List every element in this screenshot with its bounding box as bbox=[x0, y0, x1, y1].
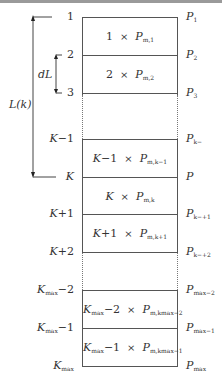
p-sub: k−+2 bbox=[193, 251, 211, 258]
k-text: K bbox=[37, 283, 45, 296]
k-text: K bbox=[50, 245, 58, 258]
cell-layer-k: K×Pm,k bbox=[83, 190, 177, 203]
cell-index: K bbox=[83, 303, 91, 316]
cell-sub: m,k−1 bbox=[147, 158, 167, 165]
times-symbol: × bbox=[121, 191, 129, 202]
level-label-k-1: K−1 bbox=[14, 133, 74, 145]
pressure-label-3: P3 bbox=[186, 87, 197, 102]
pressure-label-k+2: Pk−+2 bbox=[186, 246, 211, 261]
times-symbol: × bbox=[127, 304, 135, 315]
minus-two-text: −2 bbox=[58, 283, 74, 296]
level-1-text: 1 bbox=[67, 10, 74, 23]
cell-index: 2 bbox=[106, 68, 113, 81]
max-sub: max bbox=[45, 327, 58, 334]
p-sub: max bbox=[193, 365, 206, 372]
times-symbol: × bbox=[124, 153, 132, 164]
times-symbol: × bbox=[127, 342, 135, 353]
p-sub: k−+1 bbox=[193, 213, 211, 220]
pressure-label-1: P1 bbox=[186, 11, 197, 26]
pressure-label-max: Pmax bbox=[186, 360, 206, 375]
cell-var: P bbox=[140, 152, 147, 165]
level-label-3: 3 bbox=[14, 87, 74, 99]
cell-sub: m,kmax−2 bbox=[150, 309, 183, 316]
level-label-1: 1 bbox=[14, 11, 74, 23]
pressure-label-2: P2 bbox=[186, 49, 197, 64]
cell-suffix: −1 bbox=[104, 341, 120, 354]
level-label-k+1: K+1 bbox=[14, 208, 74, 220]
cell-suffix: −1 bbox=[101, 152, 117, 165]
cell-var: P bbox=[135, 30, 142, 43]
pressure-label-max-1: Pmax−1 bbox=[186, 322, 215, 337]
p-sub: 1 bbox=[193, 16, 197, 23]
max-sub: max bbox=[91, 347, 104, 354]
p-text: P bbox=[186, 170, 193, 183]
k-text: K bbox=[37, 321, 45, 334]
cell-layer-kmax-2: Kmax−2×Pm,kmax−2 bbox=[83, 303, 177, 316]
level-label-2: 2 bbox=[14, 49, 74, 61]
dl-text: dL bbox=[38, 68, 52, 81]
times-symbol: × bbox=[124, 228, 132, 239]
plus-two-text: +2 bbox=[58, 245, 74, 258]
p-sub: 2 bbox=[193, 54, 197, 61]
k-text: K bbox=[50, 207, 58, 220]
pressure-label-k: P bbox=[186, 171, 193, 183]
max-sub: max bbox=[91, 309, 104, 316]
pressure-label-max-2: Pmax−2 bbox=[186, 284, 215, 299]
times-symbol: × bbox=[120, 69, 128, 80]
level-2-text: 2 bbox=[67, 48, 74, 61]
cell-var: P bbox=[142, 303, 149, 316]
plus-one-text: +1 bbox=[58, 207, 74, 220]
cell-index: 1 bbox=[106, 30, 113, 43]
lk-label: L(k) bbox=[9, 99, 32, 111]
p-sub: 3 bbox=[193, 92, 197, 99]
cell-var: P bbox=[142, 341, 149, 354]
cell-sub: m,k+1 bbox=[147, 233, 167, 240]
cell-index: K bbox=[93, 227, 101, 240]
cell-sub: m,2 bbox=[143, 74, 154, 81]
cell-index: K bbox=[83, 341, 91, 354]
level-label-kmax-1: Kmax−1 bbox=[14, 322, 74, 337]
max-sub: max bbox=[45, 289, 58, 296]
cell-layer-k+1: K+1×Pm,k+1 bbox=[83, 227, 177, 240]
cell-sub: m,1 bbox=[143, 36, 154, 43]
level-label-kmax: Kmax bbox=[14, 360, 74, 375]
dl-label: dL bbox=[38, 69, 52, 81]
level-3-text: 3 bbox=[67, 86, 74, 99]
pressure-label-k+1: Pk−+1 bbox=[186, 208, 211, 223]
level-label-kmax-2: Kmax−2 bbox=[14, 284, 74, 299]
cell-suffix: −2 bbox=[104, 303, 120, 316]
minus-one-text: −1 bbox=[58, 132, 74, 145]
cell-var: P bbox=[140, 227, 147, 240]
cell-suffix: +1 bbox=[101, 227, 117, 240]
cell-var: P bbox=[135, 68, 142, 81]
k-text: K bbox=[50, 132, 58, 145]
p-sub: max−1 bbox=[193, 327, 215, 334]
lk-text: L(k) bbox=[9, 98, 32, 111]
max-sub: max bbox=[61, 365, 74, 372]
pressure-label-k-1: Pk− bbox=[186, 133, 202, 148]
p-sub: k− bbox=[193, 138, 202, 145]
p-sub: max−2 bbox=[193, 289, 215, 296]
cell-index: K bbox=[105, 190, 113, 203]
cell-layer-k-1: K−1×Pm,k−1 bbox=[83, 152, 177, 165]
level-label-k: K bbox=[14, 171, 74, 183]
cell-layer-kmax-1: Kmax−1×Pm,kmax−1 bbox=[83, 341, 177, 354]
cell-index: K bbox=[93, 152, 101, 165]
cell-layer-1: 1×Pm,1 bbox=[83, 30, 177, 43]
times-symbol: × bbox=[120, 31, 128, 42]
cell-sub: m,kmax−1 bbox=[150, 347, 183, 354]
k-text: K bbox=[66, 170, 74, 183]
minus-one-text: −1 bbox=[58, 321, 74, 334]
cell-layer-2: 2×Pm,2 bbox=[83, 68, 177, 81]
cell-sub: m,k bbox=[143, 196, 154, 203]
level-label-k+2: K+2 bbox=[14, 246, 74, 258]
